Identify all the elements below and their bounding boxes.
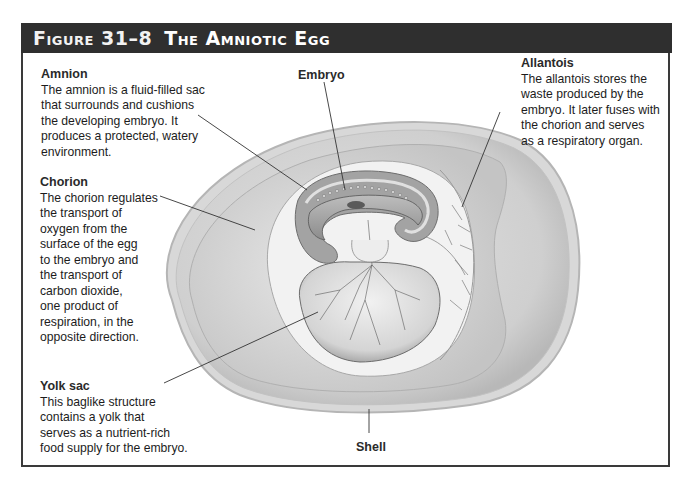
- label-yolk-sac: Yolk sac This baglike structure contains…: [40, 379, 188, 457]
- label-chorion: Chorion The chorion regulates the transp…: [40, 175, 158, 346]
- label-embryo: Embryo: [298, 68, 345, 82]
- label-amnion: Amnion The amnion is a fluid-filled sac …: [41, 67, 205, 160]
- chorion-heading: Chorion: [40, 175, 158, 191]
- amnion-heading: Amnion: [41, 67, 205, 83]
- allantois-heading: Allantois: [521, 56, 660, 72]
- label-allantois: Allantois The allantois stores the waste…: [521, 56, 660, 149]
- label-shell: Shell: [356, 440, 386, 454]
- yolk-sac-heading: Yolk sac: [40, 379, 188, 395]
